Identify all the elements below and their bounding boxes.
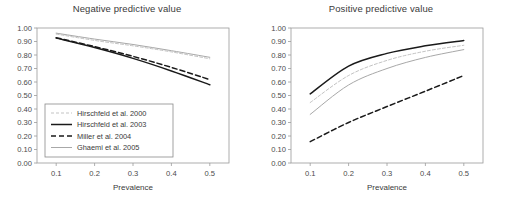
series-line [56,33,210,57]
y-tick-label: 0.20 [17,132,32,141]
series-line [310,76,464,142]
y-tick-label: 0.00 [271,159,286,168]
x-tick-label: 0.1 [305,169,316,178]
x-tick-label: 0.3 [382,169,393,178]
plot-area-left: 0.000.100.200.300.400.500.600.700.800.90… [0,0,254,207]
panel-positive-predictive-value: Positive predictive value 0.000.100.200.… [254,0,508,207]
series-line [310,40,464,93]
legend-label: Miller et al. 2004 [77,132,131,141]
y-tick-label: 0.90 [271,37,286,46]
y-tick-label: 0.10 [17,145,32,154]
y-tick-label: 0.70 [17,64,32,73]
x-tick-label: 0.2 [89,169,100,178]
y-tick-label: 0.90 [17,37,32,46]
y-tick-label: 0.50 [271,91,286,100]
x-tick-label: 0.4 [166,169,177,178]
x-tick-label: 0.5 [205,169,216,178]
y-tick-label: 1.00 [17,24,32,33]
x-tick-label: 0.3 [128,169,139,178]
y-tick-label: 1.00 [271,24,286,33]
y-tick-label: 0.80 [17,51,32,60]
plot-area-right: 0.000.100.200.300.400.500.600.700.800.90… [254,0,508,207]
y-tick-label: 0.30 [17,118,32,127]
y-tick-label: 0.00 [17,159,32,168]
series-line [310,50,464,115]
x-tick-label: 0.4 [420,169,431,178]
series-line [56,34,210,59]
y-tick-label: 0.70 [271,64,286,73]
legend-label: Ghaemi et al. 2005 [77,143,139,152]
x-tick-label: 0.2 [343,169,354,178]
x-axis-title: Prevalence [367,183,408,192]
y-tick-label: 0.50 [17,91,32,100]
x-tick-label: 0.5 [459,169,470,178]
y-tick-label: 0.30 [271,118,286,127]
y-tick-label: 0.60 [271,78,286,87]
legend-label: Hirschfeld et al. 2003 [77,120,146,129]
y-tick-label: 0.60 [17,78,32,87]
y-tick-label: 0.40 [17,105,32,114]
y-tick-label: 0.10 [271,145,286,154]
series-line [56,38,210,85]
y-tick-label: 0.40 [271,105,286,114]
y-tick-label: 0.80 [271,51,286,60]
panel-negative-predictive-value: Negative predictive value 0.000.100.200.… [0,0,254,207]
legend-label: Hirschfeld et al. 2000 [77,109,146,118]
y-tick-label: 0.20 [271,132,286,141]
predictive-value-figure: Negative predictive value 0.000.100.200.… [0,0,508,207]
x-axis-title: Prevalence [113,183,154,192]
x-tick-label: 0.1 [51,169,62,178]
